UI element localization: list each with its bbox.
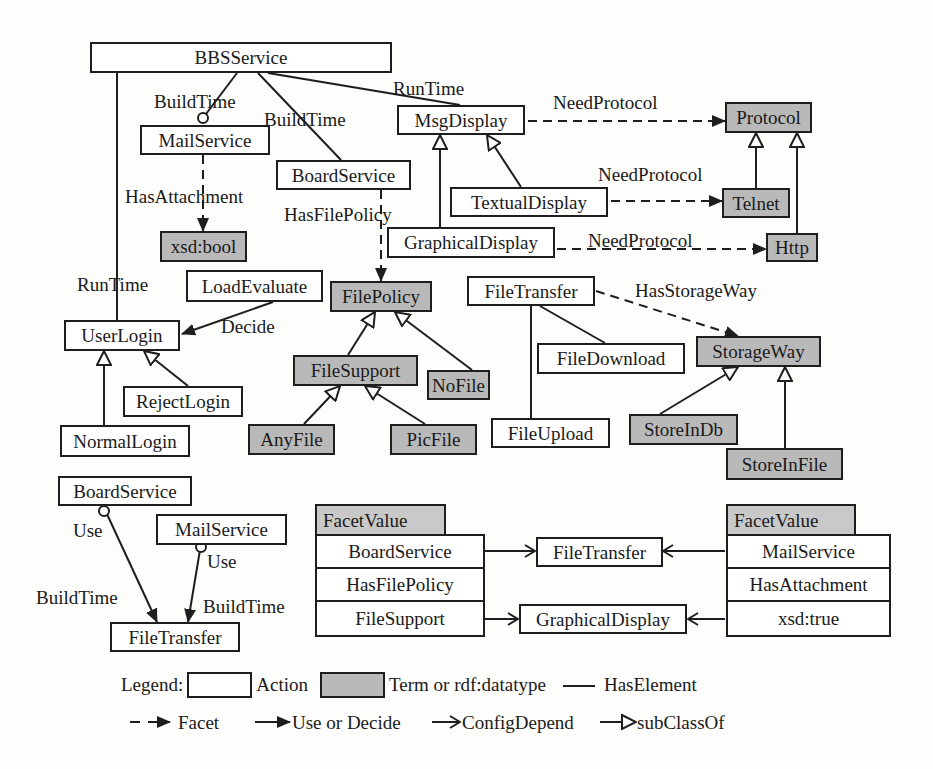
node-filedownload: FileDownload	[537, 343, 685, 374]
legend-subclassof-label: subClassOf	[637, 713, 725, 732]
facet-table-1-row: FileSupport	[317, 602, 483, 635]
node-graphicaldisplay: GraphicalDisplay	[387, 227, 555, 258]
facet-table-1-row: HasFilePolicy	[317, 569, 483, 602]
node-boardservice: BoardService	[276, 160, 411, 190]
node-filepolicy: FilePolicy	[330, 281, 432, 312]
facet-table-2: MailService HasAttachment xsd:true	[726, 534, 891, 637]
node-loadevaluate: LoadEvaluate	[186, 270, 323, 302]
node-filetransfer: FileTransfer	[467, 276, 595, 306]
node-xsdbool: xsd:bool	[160, 231, 247, 262]
edge-label: NeedProtocol	[598, 165, 702, 184]
facet-table-2-row: HasAttachment	[728, 569, 889, 602]
edge-label: BuildTime	[154, 92, 236, 111]
facet-table-2-row: MailService	[728, 536, 889, 569]
circle-icon	[198, 113, 208, 123]
node-cfg-graphicaldisplay: GraphicalDisplay	[519, 604, 687, 634]
node-bbsservice: BBSService	[90, 42, 392, 73]
node-userlogin: UserLogin	[64, 320, 180, 351]
node-mailservice: MailService	[140, 125, 270, 155]
node-msgdisplay: MsgDisplay	[397, 105, 525, 135]
edge-label: Decide	[221, 317, 275, 336]
legend-configdepend-label: ConfigDepend	[462, 713, 574, 732]
facet-table-2-header: FacetValue	[726, 504, 856, 536]
edge-filetransfer-filedownload	[540, 306, 605, 343]
node-telnet: Telnet	[722, 188, 790, 218]
facet-table-1-row: BoardService	[317, 536, 483, 569]
node-storeindb: StoreInDb	[629, 414, 738, 445]
node-cfg-filetransfer: FileTransfer	[536, 537, 663, 567]
edge-label: NeedProtocol	[588, 231, 692, 250]
node-use-mailservice: MailService	[156, 514, 287, 545]
facet-table-2-row: xsd:true	[728, 602, 889, 635]
node-textualdisplay: TextualDisplay	[450, 187, 608, 217]
legend-facet-label: Facet	[178, 713, 219, 732]
legend-action-label: Action	[256, 674, 308, 696]
node-filesupport: FileSupport	[293, 355, 418, 386]
legend-term-label: Term or rdf:datatype	[389, 674, 546, 696]
edge-label: HasFilePolicy	[284, 205, 392, 224]
edge-label: Use	[207, 552, 237, 571]
edge-label: RunTime	[77, 275, 148, 294]
circle-icon	[99, 506, 109, 516]
node-fileupload: FileUpload	[491, 418, 610, 448]
edge-label: HasAttachment	[125, 187, 243, 206]
edge-label: BuildTime	[203, 597, 285, 616]
legend-title: Legend:	[121, 674, 183, 696]
node-anyfile: AnyFile	[248, 424, 335, 455]
node-normallogin: NormalLogin	[60, 425, 190, 457]
legend-term-swatch	[320, 672, 385, 698]
node-storageway: StorageWay	[696, 336, 821, 367]
legend-haselement-label: HasElement	[604, 674, 697, 696]
node-use-boardservice: BoardService	[58, 476, 192, 506]
edge-label: RunTime	[393, 79, 464, 98]
edge-label: HasStorageWay	[635, 281, 757, 300]
facet-table-1: BoardService HasFilePolicy FileSupport	[315, 534, 485, 637]
edge-label: BuildTime	[264, 110, 346, 129]
node-storeinfile: StoreInFile	[726, 448, 843, 480]
facet-table-1-header: FacetValue	[315, 504, 446, 536]
legend-action-swatch	[187, 672, 252, 698]
node-use-filetransfer: FileTransfer	[110, 622, 240, 652]
node-rejectlogin: RejectLogin	[123, 386, 243, 417]
edge-label: NeedProtocol	[553, 93, 657, 112]
edge-label: BuildTime	[36, 588, 118, 607]
node-nofile: NoFile	[427, 370, 490, 400]
legend-use-or-decide-label: Use or Decide	[292, 713, 401, 732]
edge-label: Use	[73, 521, 103, 540]
node-protocol: Protocol	[725, 102, 812, 133]
legend-row-1: Legend: Action Term or rdf:datatype HasE…	[121, 672, 697, 698]
node-picfile: PicFile	[390, 424, 477, 455]
node-http: Http	[766, 233, 818, 262]
